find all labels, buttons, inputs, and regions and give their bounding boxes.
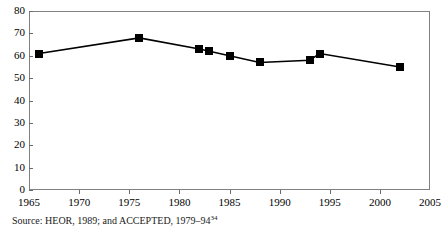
caption-text: Source: HEOR, 1989; and ACCEPTED, 1979–9… — [12, 215, 211, 226]
data-point-marker — [205, 47, 213, 55]
data-point-marker — [135, 34, 143, 42]
data-point-marker — [396, 63, 404, 71]
caption-footnote-marker: 34 — [211, 214, 218, 222]
series-line — [0, 0, 444, 227]
data-point-marker — [35, 50, 43, 58]
chart-figure: 01020304050607080 1965197019751980198519… — [0, 0, 444, 227]
figure-caption: Source: HEOR, 1989; and ACCEPTED, 1979–9… — [12, 213, 444, 226]
data-point-marker — [306, 56, 314, 64]
data-point-marker — [226, 52, 234, 60]
data-point-marker — [256, 58, 264, 66]
data-point-marker — [195, 45, 203, 53]
data-point-marker — [316, 50, 324, 58]
